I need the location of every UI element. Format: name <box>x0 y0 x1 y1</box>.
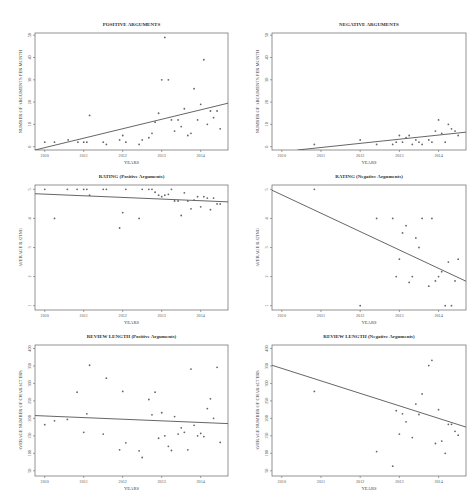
data-point <box>44 424 46 426</box>
data-point <box>193 424 195 426</box>
y-tick-label: 3 <box>27 246 32 248</box>
chart-title: RATING (Positive Arguments) <box>99 174 165 179</box>
y-tick-label: 250 <box>27 398 32 404</box>
data-point <box>125 141 127 143</box>
data-point <box>102 141 104 143</box>
y-tick-label: 1 <box>27 305 32 307</box>
data-point <box>210 398 212 400</box>
x-tick-label: 2013 <box>158 313 166 318</box>
data-point <box>197 119 199 121</box>
x-axis-label: YEARS <box>361 160 377 165</box>
data-point <box>119 227 121 229</box>
data-point <box>376 144 378 146</box>
x-tick-label: 2012 <box>356 313 364 318</box>
data-point <box>454 430 456 432</box>
trend-line <box>272 190 466 281</box>
data-point <box>451 128 453 130</box>
data-point <box>200 206 202 208</box>
data-point <box>418 141 420 143</box>
data-point <box>187 449 189 451</box>
data-point <box>193 88 195 90</box>
data-point <box>398 433 400 435</box>
data-point <box>421 393 423 395</box>
chart-title: REVIEW LENGTH (Negative Arguments) <box>323 334 415 339</box>
data-point <box>151 414 153 416</box>
y-axis-label: AVERAGE NUMBER OF CHARACTERS <box>255 370 260 451</box>
y-tick-label: 2 <box>264 276 269 278</box>
y-tick-label: 2 <box>27 276 32 278</box>
data-point <box>213 117 215 119</box>
chart-title: RATING (Negative Arguments) <box>335 174 403 179</box>
x-tick-label: 2011 <box>317 479 325 484</box>
data-point <box>197 435 199 437</box>
data-point <box>102 188 104 190</box>
data-point <box>54 218 56 220</box>
data-point <box>67 139 69 141</box>
data-point <box>141 139 143 141</box>
data-point <box>431 359 433 361</box>
y-tick-label: 30 <box>264 78 269 82</box>
data-point <box>444 141 446 143</box>
data-point <box>183 108 185 110</box>
data-point <box>376 218 378 220</box>
panel-rating-negative: RATING (Negative Arguments)2010201120122… <box>237 172 475 330</box>
data-point <box>190 132 192 134</box>
data-point <box>376 451 378 453</box>
data-point <box>193 199 195 201</box>
data-point <box>216 203 218 205</box>
x-tick-label: 2011 <box>317 313 325 318</box>
x-tick-label: 2010 <box>278 313 286 318</box>
data-point <box>174 416 176 418</box>
trend-line <box>297 132 466 150</box>
data-point <box>359 305 361 307</box>
figure: POSITIVE ARGUMENTS2010201120122013201401… <box>0 0 475 496</box>
data-point <box>219 203 221 205</box>
data-point <box>167 79 169 81</box>
data-point <box>421 218 423 220</box>
x-tick-label: 2014 <box>434 153 443 158</box>
y-axis-label: NUMBER OF ARGUMENTS PER MONTH <box>18 49 23 133</box>
data-point <box>177 433 179 435</box>
data-point <box>402 141 404 143</box>
x-tick-label: 2013 <box>395 153 403 158</box>
data-point <box>177 200 179 202</box>
x-tick-label: 2013 <box>395 313 403 318</box>
data-point <box>313 144 315 146</box>
data-point <box>102 433 104 435</box>
y-axis-label: AVERAGE NUMBER OF CHARACTERS <box>18 370 23 451</box>
data-point <box>148 399 150 401</box>
y-tick-label: 400 <box>264 345 269 351</box>
y-tick-label: 150 <box>27 433 32 439</box>
data-point <box>148 188 150 190</box>
x-tick-label: 2010 <box>41 479 49 484</box>
data-point <box>66 419 68 421</box>
y-axis-label: AVERAGE RATING <box>255 227 260 267</box>
data-point <box>154 191 156 193</box>
data-point <box>457 135 459 137</box>
x-axis-label: YEARS <box>361 320 377 325</box>
data-point <box>154 391 156 393</box>
data-point <box>161 79 163 81</box>
y-tick-label: 200 <box>27 415 32 421</box>
y-tick-label: 5 <box>27 188 32 190</box>
data-point <box>171 119 173 121</box>
data-point <box>119 449 121 451</box>
plot-frame <box>272 33 466 150</box>
chart-title: REVIEW LENGTH (Positive Arguments) <box>87 334 177 339</box>
data-point <box>151 188 153 190</box>
data-point <box>141 457 143 459</box>
data-point <box>418 414 420 416</box>
data-point <box>164 194 166 196</box>
x-tick-label: 2012 <box>119 479 127 484</box>
data-point <box>105 144 107 146</box>
data-point <box>164 435 166 437</box>
data-point <box>89 194 91 196</box>
data-point <box>122 135 124 137</box>
data-point <box>398 135 400 137</box>
data-point <box>435 280 437 282</box>
data-point <box>105 188 107 190</box>
data-point <box>454 130 456 132</box>
data-point <box>405 137 407 139</box>
trend-line <box>35 416 228 424</box>
data-point <box>66 188 68 190</box>
